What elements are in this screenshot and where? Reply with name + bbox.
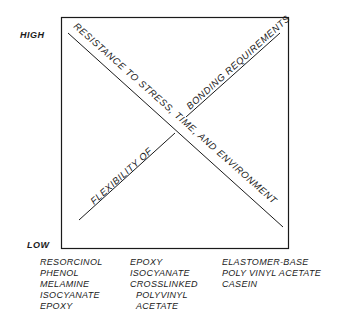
adhesive-column-middle: EPOXY ISOCYANATE CROSSLINKED POLYVINYL A…: [130, 257, 198, 312]
adhesive-item: MELAMINE: [40, 279, 103, 290]
flexibility-line-upper: [186, 33, 280, 117]
bonding-requirements-label: BONDING REQUIREMENTS: [184, 13, 292, 112]
adhesive-item: ACETATE: [130, 301, 198, 312]
adhesive-column-low: ELASTOMER-BASE POLY VINYL ACETATE CASEIN: [222, 257, 321, 290]
adhesive-item: CROSSLINKED: [130, 279, 198, 290]
adhesive-item: POLYVINYL: [130, 290, 198, 301]
adhesive-item: RESORCINOL: [40, 257, 103, 268]
adhesive-item: CASEIN: [222, 279, 321, 290]
adhesive-item: POLY VINYL ACETATE: [222, 268, 321, 279]
adhesive-item: EPOXY: [130, 257, 198, 268]
adhesive-item: PHENOL: [40, 268, 103, 279]
flexibility-line-label: FLEXIBILITY OF: [88, 145, 155, 207]
adhesive-item: ISOCYANATE: [130, 268, 198, 279]
adhesive-item: EPOXY: [40, 301, 103, 312]
adhesive-item: ISOCYANATE: [40, 290, 103, 301]
adhesive-item: ELASTOMER-BASE: [222, 257, 321, 268]
adhesive-column-high: RESORCINOL PHENOL MELAMINE ISOCYANATE EP…: [40, 257, 103, 312]
